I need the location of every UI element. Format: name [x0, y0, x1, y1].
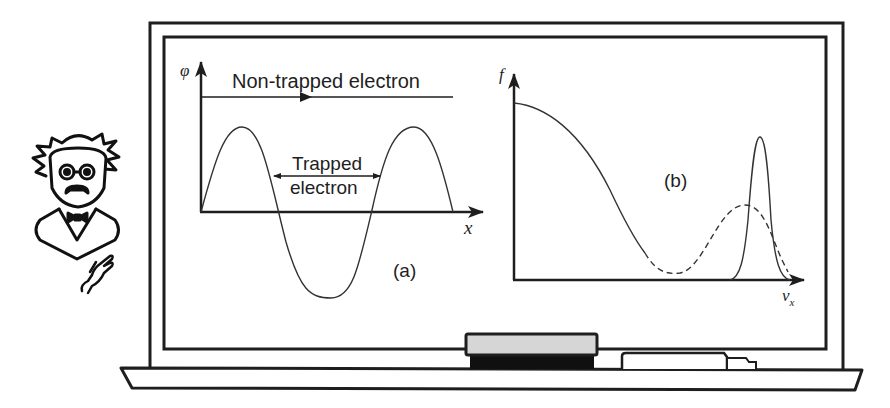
- blackboard-scene: φ Non-trapped electron Trapped electron …: [0, 0, 890, 408]
- trapped-label-2: electron: [290, 177, 358, 198]
- chalk-stick: [622, 353, 727, 369]
- board-ledge: [121, 368, 862, 390]
- trapped-label-1: Trapped: [292, 153, 362, 174]
- pointing-hand: [82, 256, 113, 293]
- face: [50, 148, 106, 207]
- x-label-a: x: [463, 217, 473, 238]
- professor-avatar: [33, 134, 119, 293]
- phi-label: φ: [180, 61, 189, 80]
- panel-b-label: (b): [664, 170, 687, 191]
- panel-a-label: (a): [393, 260, 416, 281]
- eraser-top: [466, 334, 597, 355]
- non-trapped-label: Non-trapped electron: [232, 70, 420, 92]
